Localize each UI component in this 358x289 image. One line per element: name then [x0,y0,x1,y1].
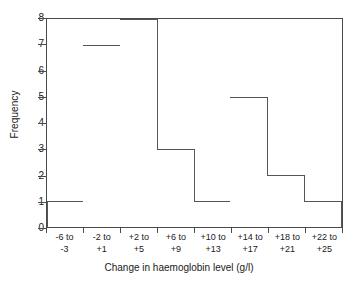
bar-cell [268,19,305,227]
x-axis-tick-label-line: +18 to [269,232,306,244]
x-axis-tick-label: +22 to+25 [306,232,343,255]
histogram-bar[interactable] [194,201,232,227]
x-axis-title: Change in haemoglobin level (g/l) [0,262,358,273]
y-axis-tick-mark [38,71,46,72]
x-axis-tick-label: +2 to+5 [120,232,157,255]
x-axis-tick-label-line: +2 to [120,232,157,244]
bar-cell [121,19,158,227]
y-axis-tick-mark [38,149,46,150]
plot-area [46,18,343,228]
histogram-bar[interactable] [83,45,121,227]
bar-cell [195,19,232,227]
histogram-bar[interactable] [304,201,342,227]
bar-cell [231,19,268,227]
x-axis-tick-label: -6 to-3 [46,232,83,255]
y-axis-tick-mark [38,97,46,98]
histogram-figure: Frequency 012345678 -6 to-3-2 to+1+2 to+… [0,0,358,289]
x-axis-tick-label-line: +5 [120,244,157,256]
histogram-bar[interactable] [157,149,195,227]
histogram-bar[interactable] [47,201,84,227]
y-axis-title: Frequency [6,0,22,228]
x-axis-tick-label-line: +25 [306,244,343,256]
y-axis-title-text: Frequency [9,90,20,138]
bar-cell [84,19,121,227]
x-axis-tick-label-line: +13 [195,244,232,256]
y-axis-tick-mark [38,18,46,19]
bar-cell [158,19,195,227]
y-axis-tick-mark [38,228,46,229]
y-axis-tick-mark [38,202,46,203]
x-axis-tick-label-line: -3 [46,244,83,256]
x-axis-tick-label-line: +10 to [195,232,232,244]
x-axis-tick-label: +14 to+17 [232,232,269,255]
x-axis-tick-label: +10 to+13 [195,232,232,255]
x-axis-tick-label: +18 to+21 [269,232,306,255]
bar-cell [305,19,342,227]
histogram-bar[interactable] [267,175,305,227]
x-axis-tick-label-line: +17 [232,244,269,256]
x-axis-tick-label-line: +9 [157,244,194,256]
x-axis-tick-label-line: +14 to [232,232,269,244]
bar-cell [47,19,84,227]
y-axis-tick-mark [38,176,46,177]
y-axis-tick-mark [38,123,46,124]
x-axis-tick-label-line: -2 to [83,232,120,244]
bars-container [47,19,342,227]
y-axis-tick-mark [38,44,46,45]
x-axis-tick-labels: -6 to-3-2 to+1+2 to+5+6 to+9+10 to+13+14… [46,232,343,255]
x-axis-tick-label: +6 to+9 [157,232,194,255]
x-axis-tick-label-line: +1 [83,244,120,256]
x-axis-tick-label: -2 to+1 [83,232,120,255]
histogram-bar[interactable] [120,19,158,227]
histogram-bar[interactable] [230,97,268,227]
x-axis-tick-label-line: -6 to [46,232,83,244]
x-axis-tick-label-line: +21 [269,244,306,256]
x-axis-tick-label-line: +6 to [157,232,194,244]
x-axis-tick-label-line: +22 to [306,232,343,244]
